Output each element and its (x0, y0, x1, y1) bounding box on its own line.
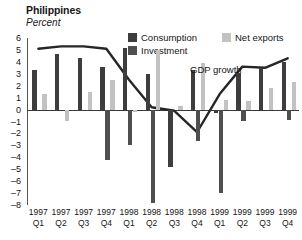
y-axis-tick-label: –2 (11, 129, 21, 138)
x-axis-tick-1999-Q4: 1999Q4 (273, 207, 302, 229)
y-axis-tick-label: 3 (16, 69, 21, 78)
bar-investment (196, 110, 200, 141)
bar-net-exports (292, 82, 296, 109)
chart-root: Philippines Percent Consumption Investme… (0, 0, 302, 240)
x-tick-year: 1999 (273, 207, 302, 218)
bar-net-exports (269, 88, 273, 109)
bar-investment (105, 110, 109, 160)
y-axis-tick-label: –8 (11, 201, 21, 210)
bar-investment (151, 110, 155, 203)
bar-consumption (236, 73, 240, 110)
y-axis-tick-label: 6 (16, 34, 21, 43)
bar-net-exports (133, 110, 137, 112)
bar-consumption (55, 54, 59, 110)
y-axis-tick-label: –1 (11, 117, 21, 126)
bar-investment (287, 110, 291, 121)
y-axis-tick-label: –6 (11, 177, 21, 186)
bar-net-exports (178, 106, 182, 110)
bar-consumption (191, 70, 195, 109)
page-title: Philippines (26, 4, 81, 16)
bar-investment (219, 110, 223, 194)
bar-consumption (282, 62, 286, 110)
bar-consumption (146, 74, 150, 110)
y-axis-tick-label: 2 (16, 81, 21, 90)
y-axis-tick-label: –4 (11, 153, 21, 162)
y-axis-tick-label: –7 (11, 189, 21, 198)
bar-net-exports (156, 50, 160, 110)
bar-consumption (123, 48, 127, 110)
gdp-growth-label: GDP growth (190, 64, 242, 75)
bar-consumption (168, 110, 172, 167)
y-axis-tick-label: –5 (11, 165, 21, 174)
bar-consumption (100, 67, 104, 110)
bar-net-exports (246, 101, 250, 109)
bar-investment (241, 110, 245, 122)
bar-net-exports (65, 110, 69, 122)
bar-net-exports (110, 80, 114, 110)
chart-subtitle: Percent (26, 17, 60, 28)
bar-consumption (259, 68, 263, 110)
bar-consumption (32, 70, 36, 109)
bar-net-exports (42, 94, 46, 110)
y-axis-tick-label: 5 (16, 45, 21, 54)
plot-area (27, 38, 299, 205)
gdp-growth-polyline (38, 46, 287, 132)
x-tick-quarter: Q4 (273, 218, 302, 229)
bar-investment (128, 110, 132, 146)
x-axis-labels: 1997Q11997Q21997Q31997Q41998Q11998Q21998… (27, 207, 299, 237)
gdp-growth-line (27, 38, 299, 205)
y-axis-labels: 6543210–1–2–3–4–5–6–7–8 (0, 38, 24, 205)
y-axis-tick-label: 4 (16, 57, 21, 66)
y-axis-tick-label: 1 (16, 93, 21, 102)
y-axis-tick-label: –3 (11, 141, 21, 150)
bar-consumption (214, 110, 218, 114)
bar-net-exports (88, 92, 92, 110)
y-axis-tick-label: 0 (16, 105, 21, 114)
bar-consumption (78, 58, 82, 109)
bar-net-exports (224, 100, 228, 110)
